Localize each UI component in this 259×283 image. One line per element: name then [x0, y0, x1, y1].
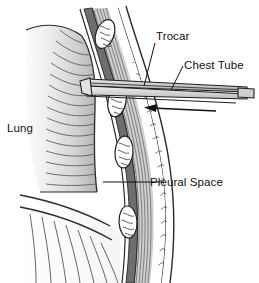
label-pleural-space: Pleural Space: [150, 176, 223, 188]
label-lung: Lung: [7, 122, 33, 134]
chest-tube-insertion-diagram: Trocar Chest Tube Lung Pleural Space: [0, 0, 259, 283]
label-chest-tube: Chest Tube: [184, 59, 244, 71]
lung-graphic: [26, 25, 97, 192]
label-trocar: Trocar: [156, 30, 189, 42]
trocar-tip: [80, 78, 92, 96]
illustration-canvas: Trocar Chest Tube Lung Pleural Space: [0, 0, 259, 283]
tube-distal-end: [238, 88, 254, 98]
